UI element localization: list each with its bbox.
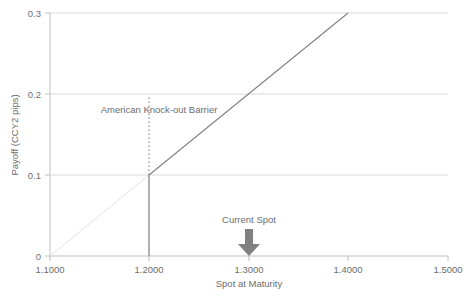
x-tick-label-1.1000: 1.1000 [35,264,64,275]
x-tick-label-1.4000: 1.4000 [333,264,362,275]
annotation-current-spot: Current Spot [222,214,276,225]
y-tick-label-0.3: 0.3 [28,8,41,19]
annotation-american-knock-out-barrier: American Knock-out Barrier [101,104,218,115]
y-axis-ticks [45,13,50,256]
y-tick-label-0.1: 0.1 [28,170,41,181]
payoff-chart: 0.3 0.2 0.1 0 1.1000 1.2000 1.3000 1.400… [0,0,473,300]
x-axis-ticks [50,256,448,261]
x-tick-label-1.3000: 1.3000 [234,264,263,275]
arrow-shaft [245,229,253,245]
y-axis-title: Payoff (CCY2 pips) [9,94,20,175]
y-tick-label-0: 0 [36,251,41,262]
x-tick-label-1.2000: 1.2000 [134,264,163,275]
chart-canvas: 0.3 0.2 0.1 0 1.1000 1.2000 1.3000 1.400… [0,0,473,300]
x-tick-label-1.5000: 1.5000 [433,264,462,275]
x-axis-title: Spot at Maturity [216,278,283,289]
y-tick-label-0.2: 0.2 [28,89,41,100]
